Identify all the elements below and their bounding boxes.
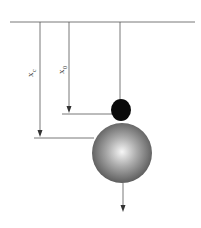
pendulum-diagram: x c x 0	[0, 0, 201, 228]
x0-arrowhead-icon	[67, 106, 72, 113]
gravity-arrowhead-icon	[121, 205, 126, 212]
svg-text:c: c	[31, 69, 37, 72]
small-sphere	[111, 99, 131, 121]
xc-arrowhead-icon	[38, 130, 43, 137]
x0-label: x 0	[56, 66, 68, 74]
svg-text:0: 0	[62, 66, 68, 69]
xc-label: x c	[25, 69, 37, 77]
large-sphere	[92, 123, 152, 183]
